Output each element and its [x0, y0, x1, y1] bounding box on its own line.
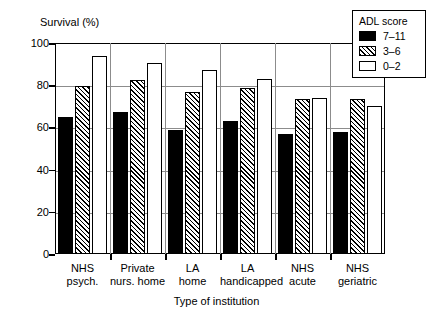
legend-entries: 7–113–60–2 [359, 30, 420, 72]
y-axis-title: Survival (%) [40, 16, 99, 28]
x-axis-category-label-line: nurs. home [110, 275, 165, 288]
bar [185, 92, 201, 254]
legend-title: ADL score [359, 15, 420, 27]
bar [312, 98, 328, 254]
legend-swatch [359, 46, 376, 56]
x-axis-category-label-line: geriatric [330, 275, 385, 288]
bar [113, 112, 129, 254]
bar-group [220, 43, 275, 254]
legend-entry-label: 7–11 [383, 30, 406, 42]
x-axis-category-label-line: home [165, 275, 220, 288]
bar [240, 88, 256, 254]
group-separator [330, 43, 331, 254]
legend-entry: 0–2 [359, 60, 420, 72]
x-axis-category-label: LAhandicapped [220, 262, 275, 287]
group-separator [220, 43, 221, 254]
group-separator [110, 43, 111, 254]
x-axis-category-label: NHSacute [275, 262, 330, 287]
x-axis-category-label-line: Private [110, 262, 165, 275]
x-axis-category-label-line: NHS [275, 262, 330, 275]
bar [367, 106, 383, 254]
survival-bar-chart: Survival (%) 020406080100 NHSpsych.Priva… [0, 0, 433, 322]
bar [58, 117, 74, 254]
bar-group [110, 43, 165, 254]
x-axis-tick-mark [165, 254, 167, 260]
bar [202, 70, 218, 254]
y-axis-tick-label: 40 [15, 164, 49, 176]
group-separator [165, 43, 166, 254]
x-axis-category-label: Privatenurs. home [110, 262, 165, 287]
bar [278, 134, 294, 254]
x-axis-category-label-line: psych. [55, 275, 110, 288]
y-axis-tick-mark [49, 254, 55, 256]
x-axis-category-label-line: LA [220, 262, 275, 275]
x-axis-tick-mark [330, 254, 332, 260]
x-axis-category-label-line: NHS [55, 262, 110, 275]
legend-swatch [359, 31, 376, 41]
y-axis-tick-label: 80 [15, 79, 49, 91]
x-axis-category-label: LAhome [165, 262, 220, 287]
bar-group [165, 43, 220, 254]
bar [130, 80, 146, 254]
bar [350, 99, 366, 254]
x-axis-tick-mark [275, 254, 277, 260]
legend-entry: 7–11 [359, 30, 420, 42]
bar [147, 63, 163, 254]
legend-entry-label: 0–2 [383, 60, 401, 72]
bar [257, 79, 273, 254]
x-axis-category-label-line: acute [275, 275, 330, 288]
legend: ADL score 7–113–60–2 [352, 10, 426, 78]
bar [333, 132, 349, 254]
x-axis-category-label-line: LA [165, 262, 220, 275]
bar [75, 86, 91, 254]
y-axis-tick-label: 60 [15, 121, 49, 133]
bar-groups [55, 43, 385, 254]
legend-entry-label: 3–6 [383, 45, 401, 57]
bar-group [55, 43, 110, 254]
y-axis-tick-label: 100 [15, 37, 49, 49]
bar [223, 121, 239, 254]
x-axis-category-label: NHSpsych. [55, 262, 110, 287]
x-axis-title: Type of institution [0, 295, 433, 307]
legend-entry: 3–6 [359, 45, 420, 57]
legend-swatch [359, 61, 376, 71]
x-axis-category-label-line: NHS [330, 262, 385, 275]
bar [295, 99, 311, 254]
x-axis-tick-mark [220, 254, 222, 260]
bar [168, 130, 184, 254]
y-axis-tick-label: 20 [15, 206, 49, 218]
y-axis-tick-label: 0 [15, 248, 49, 260]
x-axis-category-label-line: handicapped [220, 275, 275, 288]
x-axis-category-label: NHSgeriatric [330, 262, 385, 287]
bar [92, 56, 108, 254]
bar-group [275, 43, 330, 254]
group-separator [275, 43, 276, 254]
x-axis-tick-mark [110, 254, 112, 260]
